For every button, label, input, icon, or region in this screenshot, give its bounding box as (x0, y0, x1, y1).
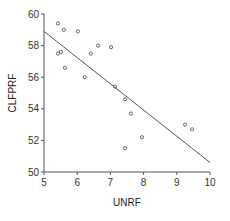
data-point (89, 52, 92, 55)
y-axis-ticks: 505254565860 (28, 9, 44, 178)
y-tick-label: 52 (28, 135, 40, 146)
regression-line (44, 31, 210, 162)
x-axis-label: UNRF (113, 197, 141, 208)
x-tick-label: 9 (174, 177, 180, 188)
data-point (123, 147, 126, 150)
fit-line (44, 31, 210, 162)
data-point (140, 136, 143, 139)
data-point (123, 98, 126, 101)
y-axis-label: CLFPRF (7, 74, 18, 113)
data-point (83, 76, 86, 79)
data-points (56, 22, 193, 150)
x-tick-label: 8 (141, 177, 147, 188)
y-tick-label: 54 (28, 103, 40, 114)
x-tick-label: 7 (108, 177, 114, 188)
data-point (56, 22, 59, 25)
data-point (62, 28, 65, 31)
y-tick-label: 60 (28, 9, 40, 20)
x-tick-label: 6 (74, 177, 80, 188)
y-tick-label: 50 (28, 167, 40, 178)
data-point (59, 50, 62, 53)
data-point (109, 46, 112, 49)
data-point (129, 112, 132, 115)
data-point (76, 30, 79, 33)
data-point (190, 128, 193, 131)
scatter-chart: 505254565860 5678910 UNRF CLFPRF (0, 0, 230, 221)
y-tick-label: 56 (28, 72, 40, 83)
data-point (97, 44, 100, 47)
x-tick-label: 10 (204, 177, 216, 188)
data-point (63, 66, 66, 69)
x-axis-ticks: 5678910 (41, 172, 216, 188)
x-tick-label: 5 (41, 177, 47, 188)
data-point (184, 123, 187, 126)
y-tick-label: 58 (28, 40, 40, 51)
